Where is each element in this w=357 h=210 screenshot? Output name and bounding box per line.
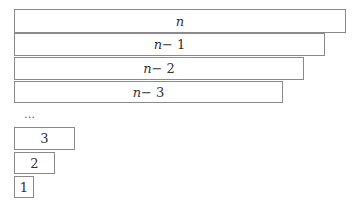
bar-label: 1 bbox=[20, 180, 28, 195]
bar-label-var: n bbox=[176, 14, 184, 29]
bar-label: 3 bbox=[40, 131, 48, 146]
bar-n-minus-1: n − 1 bbox=[14, 33, 325, 56]
bar-3: 3 bbox=[14, 127, 75, 150]
bar-label-var: n bbox=[143, 61, 151, 76]
bar-n: n bbox=[14, 9, 346, 33]
bar-n-minus-3: n − 3 bbox=[14, 81, 283, 103]
bar-label-suffix: − 3 bbox=[141, 85, 164, 100]
bar-1: 1 bbox=[14, 176, 34, 198]
bar-label-suffix: − 2 bbox=[152, 61, 175, 76]
bar-2: 2 bbox=[14, 152, 55, 174]
bar-n-minus-2: n − 2 bbox=[14, 57, 304, 80]
ellipsis: … bbox=[24, 108, 36, 121]
bar-label-var: n bbox=[154, 37, 162, 52]
bar-label: 2 bbox=[30, 156, 38, 171]
bar-label-var: n bbox=[133, 85, 141, 100]
bar-label-suffix: − 1 bbox=[162, 37, 185, 52]
